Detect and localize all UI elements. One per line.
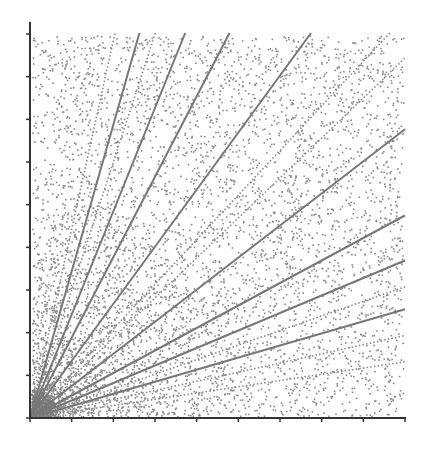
solid-ray (30, 33, 139, 418)
solid-ray (30, 33, 185, 418)
scatter-points (31, 35, 405, 419)
ray-lines (30, 33, 405, 418)
scatter-chart (0, 0, 429, 452)
dotted-ray (30, 287, 405, 418)
